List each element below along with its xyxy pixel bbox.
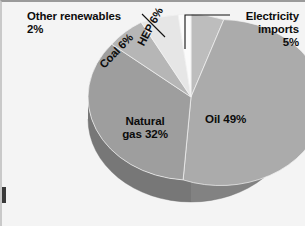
pie-chart-graphic [2,2,305,226]
page-edge-mark [2,187,6,203]
pie-chart-figure: Other renewables 2% Electricity imports … [0,0,305,226]
